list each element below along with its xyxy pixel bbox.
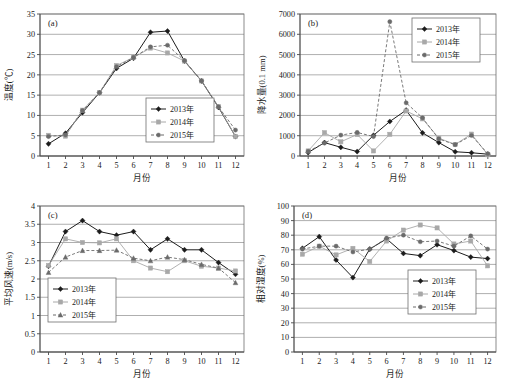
x-axis-title: 月份 bbox=[133, 172, 151, 183]
data-point bbox=[63, 255, 68, 260]
y-tick-label: 4 bbox=[31, 202, 35, 211]
data-point bbox=[485, 264, 489, 268]
y-axis-ticks: 05101520253035 bbox=[27, 10, 40, 161]
legend-label: 2013年 bbox=[72, 284, 96, 294]
y-tick-label: 0 bbox=[31, 152, 35, 161]
data-point bbox=[422, 40, 426, 44]
data-point bbox=[182, 247, 187, 252]
data-point bbox=[486, 152, 490, 156]
data-point bbox=[216, 105, 220, 109]
x-tick-label: 2 bbox=[63, 161, 67, 170]
x-tick-label: 8 bbox=[165, 161, 169, 170]
y-tick-label: 7000 bbox=[279, 10, 295, 19]
y-tick-label: 6000 bbox=[279, 30, 295, 39]
data-point bbox=[469, 234, 473, 238]
y-tick-label: 2 bbox=[31, 275, 35, 284]
x-tick-label: 7 bbox=[401, 357, 405, 366]
y-axis-ticks: 0102030405060708090100 bbox=[277, 202, 294, 357]
data-point bbox=[418, 223, 422, 227]
legend-label: 2013年 bbox=[436, 24, 460, 34]
y-tick-label: 15 bbox=[27, 91, 35, 100]
data-point bbox=[46, 141, 51, 146]
data-point bbox=[148, 45, 152, 49]
data-point bbox=[97, 241, 101, 245]
data-point bbox=[114, 237, 118, 241]
x-axis-ticks: 123456789101112 bbox=[306, 156, 492, 170]
legend-label: 2015年 bbox=[432, 302, 456, 312]
y-tick-label: 90 bbox=[281, 217, 289, 226]
data-point bbox=[156, 133, 160, 137]
series-line bbox=[302, 225, 487, 266]
data-point bbox=[485, 256, 490, 261]
data-point bbox=[355, 130, 359, 134]
data-point bbox=[418, 292, 422, 296]
data-point bbox=[322, 131, 326, 135]
x-tick-label: 4 bbox=[97, 161, 101, 170]
data-point bbox=[435, 239, 439, 243]
panel-tag: (c) bbox=[48, 210, 58, 220]
chart-panel-b: 0100020003000400050006000700012345678910… bbox=[252, 0, 505, 193]
legend-label: 2015年 bbox=[436, 50, 460, 60]
legend-label: 2014年 bbox=[432, 289, 456, 299]
y-tick-label: 10 bbox=[281, 333, 289, 342]
series-2014年 bbox=[300, 223, 489, 268]
x-tick-label: 6 bbox=[131, 357, 135, 366]
x-axis-ticks: 123456789101112 bbox=[300, 352, 491, 366]
series-line bbox=[49, 239, 236, 272]
data-point bbox=[404, 101, 408, 105]
x-tick-label: 6 bbox=[388, 161, 392, 170]
x-axis-title: 月份 bbox=[386, 368, 404, 379]
x-tick-label: 10 bbox=[197, 161, 205, 170]
data-point bbox=[339, 133, 343, 137]
data-point bbox=[371, 134, 375, 138]
panel-tag: (b) bbox=[308, 18, 318, 28]
series-2013年 bbox=[46, 218, 238, 277]
x-tick-label: 2 bbox=[63, 357, 67, 366]
y-tick-label: 30 bbox=[281, 304, 289, 313]
data-point bbox=[418, 253, 423, 258]
x-tick-label: 7 bbox=[148, 161, 152, 170]
y-tick-label: 30 bbox=[27, 30, 35, 39]
data-point bbox=[401, 228, 405, 232]
x-tick-label: 2 bbox=[322, 161, 326, 170]
x-tick-label: 4 bbox=[355, 161, 359, 170]
legend: 2013年2014年2015年 bbox=[408, 270, 476, 314]
y-tick-label: 3000 bbox=[279, 91, 295, 100]
y-tick-label: 50 bbox=[281, 275, 289, 284]
data-point bbox=[199, 79, 203, 83]
data-point bbox=[351, 250, 355, 254]
x-tick-label: 10 bbox=[197, 357, 205, 366]
y-tick-label: 0 bbox=[31, 348, 35, 357]
x-tick-label: 3 bbox=[80, 161, 84, 170]
x-tick-label: 1 bbox=[46, 161, 50, 170]
data-point bbox=[233, 269, 237, 273]
x-tick-label: 5 bbox=[114, 161, 118, 170]
y-tick-label: 3.5 bbox=[25, 220, 35, 229]
x-tick-label: 8 bbox=[418, 357, 422, 366]
x-tick-label: 3 bbox=[339, 161, 343, 170]
y-tick-label: 2.5 bbox=[25, 257, 35, 266]
data-point bbox=[233, 134, 237, 138]
data-point bbox=[469, 150, 474, 155]
data-point bbox=[80, 218, 85, 223]
x-axis-ticks: 123456789101112 bbox=[46, 156, 239, 170]
x-tick-label: 5 bbox=[368, 357, 372, 366]
x-tick-label: 1 bbox=[300, 357, 304, 366]
data-point bbox=[451, 248, 456, 253]
y-axis-ticks: 00.511.522.533.54 bbox=[25, 202, 40, 357]
data-point bbox=[306, 149, 310, 153]
data-point bbox=[114, 65, 118, 69]
data-point bbox=[452, 244, 456, 248]
x-tick-label: 12 bbox=[231, 357, 239, 366]
data-point bbox=[384, 236, 388, 240]
data-point bbox=[300, 247, 304, 251]
chart-c: 00.511.522.533.54123456789101112月份平均风速(m… bbox=[0, 190, 253, 386]
data-point bbox=[418, 305, 422, 309]
data-point bbox=[334, 253, 338, 257]
y-tick-label: 5000 bbox=[279, 51, 295, 60]
y-tick-label: 20 bbox=[27, 71, 35, 80]
data-point bbox=[63, 237, 67, 241]
data-point bbox=[435, 226, 439, 230]
y-tick-label: 10 bbox=[27, 111, 35, 120]
y-tick-label: 0 bbox=[291, 152, 295, 161]
